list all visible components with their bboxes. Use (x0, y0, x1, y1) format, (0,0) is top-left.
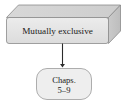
node-mutually-exclusive[interactable]: Mutually exclusive (7, 5, 121, 44)
diagram-svg: Mutually exclusive Chaps. 5–9 (0, 0, 127, 102)
diagram-canvas: Mutually exclusive Chaps. 5–9 (0, 0, 127, 102)
chapters-label-line2: 5–9 (58, 85, 71, 95)
mutually-exclusive-label: Mutually exclusive (22, 26, 93, 36)
node-chapters[interactable]: Chaps. 5–9 (37, 69, 92, 100)
cuboid-top-face (7, 5, 121, 18)
chapters-label-line1: Chaps. (52, 75, 76, 85)
